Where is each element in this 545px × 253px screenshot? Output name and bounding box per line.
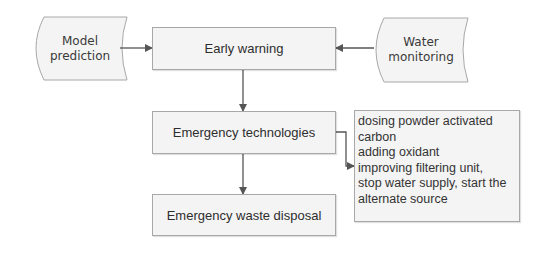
emergency-waste-disposal-label: Emergency waste disposal (167, 208, 322, 223)
emergency-technologies-label: Emergency technologies (173, 125, 315, 140)
technologies-notes-box: dosing powder activated carbon adding ox… (354, 110, 520, 222)
early-warning-box: Early warning (152, 27, 336, 70)
notes-line: dosing powder activated (358, 114, 517, 130)
water-monitoring-line2: monitoring (388, 50, 454, 65)
early-warning-label: Early warning (205, 41, 284, 56)
emergency-waste-disposal-box: Emergency waste disposal (152, 194, 336, 236)
notes-line: alternate source (358, 192, 517, 208)
notes-line: stop water supply, start the (358, 176, 517, 192)
notes-line: carbon (358, 130, 517, 146)
flowchart-diagram: Model prediction Water monitoring Early … (0, 0, 545, 253)
notes-line: improving filtering unit, (358, 161, 517, 177)
water-monitoring-node: Water monitoring (378, 18, 464, 82)
model-prediction-line1: Model (62, 34, 98, 49)
water-monitoring-line1: Water (403, 35, 438, 50)
emergency-technologies-box: Emergency technologies (152, 111, 336, 154)
model-prediction-node: Model prediction (38, 17, 122, 80)
arrow-technologies-to-notes (335, 132, 354, 166)
model-prediction-line2: prediction (50, 49, 110, 64)
notes-line: adding oxidant (358, 145, 517, 161)
